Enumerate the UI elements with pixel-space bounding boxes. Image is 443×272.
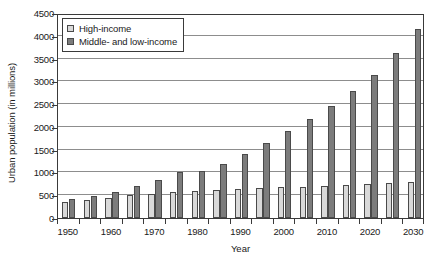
x-axis-tick <box>208 219 209 224</box>
bar-middle-and-low-income <box>112 192 118 218</box>
x-axis-tick <box>316 219 317 224</box>
bar-high-income <box>300 187 306 218</box>
bar-high-income <box>235 189 241 218</box>
x-axis-tick-label: 1990 <box>218 226 264 238</box>
bar-group <box>382 15 404 218</box>
bar-middle-and-low-income <box>328 106 334 218</box>
bar-high-income <box>192 191 198 218</box>
y-axis-tick-label: 1000 <box>16 168 54 178</box>
x-axis-tick-label: 1980 <box>174 226 220 238</box>
bar-middle-and-low-income <box>263 143 269 218</box>
bar-group <box>317 15 339 218</box>
bar-high-income <box>408 182 414 218</box>
x-axis-tick <box>187 219 188 224</box>
legend-item-middle-and-low-income: Middle- and low-income <box>67 35 177 48</box>
urban-population-bar-chart: Urban population (in millions) 450040003… <box>0 0 443 272</box>
x-axis-tick <box>359 219 360 224</box>
bar-middle-and-low-income <box>285 131 291 218</box>
legend-item-high-income: High-income <box>67 22 177 35</box>
bar-high-income <box>84 200 90 218</box>
x-axis-ticks <box>57 219 424 224</box>
x-axis-tick <box>338 219 339 224</box>
legend-label-high-income: High-income <box>79 23 131 34</box>
bar-middle-and-low-income <box>199 171 205 218</box>
bar-middle-and-low-income <box>69 199 75 218</box>
x-axis-tick-labels: 195019601970198019902000201020202030 <box>0 226 443 240</box>
bar-group <box>231 15 253 218</box>
bar-middle-and-low-income <box>371 75 377 218</box>
x-axis-tick <box>251 219 252 224</box>
bar-middle-and-low-income <box>242 154 248 218</box>
y-axis-tick-label: 2500 <box>16 100 54 110</box>
x-axis-tick <box>79 219 80 224</box>
x-axis-tick <box>122 219 123 224</box>
y-axis-tick-label: 500 <box>16 191 54 201</box>
x-axis-tick <box>143 219 144 224</box>
x-axis-tick-label: 2020 <box>347 226 393 238</box>
x-axis-tick <box>423 219 424 224</box>
bar-middle-and-low-income <box>177 172 183 218</box>
x-axis-tick <box>165 219 166 224</box>
x-axis-tick <box>402 219 403 224</box>
legend-swatch-icon-middle-and-low-income <box>67 38 74 45</box>
bar-high-income <box>148 194 154 218</box>
y-axis-tick-label: 2000 <box>16 123 54 133</box>
legend-swatch-icon-high-income <box>67 25 74 32</box>
bar-high-income <box>343 185 349 218</box>
bar-group <box>274 15 296 218</box>
x-axis-tick-label: 1960 <box>88 226 134 238</box>
y-axis-tick-label: 3500 <box>16 55 54 65</box>
x-axis-tick-label: 1970 <box>131 226 177 238</box>
bar-group <box>252 15 274 218</box>
x-axis-tick-label: 2000 <box>261 226 307 238</box>
bar-middle-and-low-income <box>393 53 399 218</box>
y-axis-tick-label: 4500 <box>16 9 54 19</box>
bar-middle-and-low-income <box>307 119 313 218</box>
x-axis-tick-label: 1950 <box>45 226 91 238</box>
bar-group <box>360 15 382 218</box>
bar-high-income <box>278 187 284 218</box>
bar-middle-and-low-income <box>155 180 161 218</box>
bar-middle-and-low-income <box>350 91 356 218</box>
bar-group <box>188 15 210 218</box>
chart-legend: High-income Middle- and low-income <box>62 18 184 52</box>
bar-high-income <box>213 190 219 218</box>
bar-high-income <box>256 188 262 218</box>
bar-high-income <box>127 195 133 218</box>
x-axis-tick <box>273 219 274 224</box>
bar-group <box>209 15 231 218</box>
bar-middle-and-low-income <box>415 29 421 218</box>
x-axis-tick <box>381 219 382 224</box>
bar-high-income <box>105 198 111 219</box>
y-axis-title-label: Urban population (in millions) <box>6 63 17 183</box>
bar-group <box>295 15 317 218</box>
x-axis-tick <box>100 219 101 224</box>
x-axis-title: Year <box>57 243 424 255</box>
bar-middle-and-low-income <box>220 164 226 218</box>
y-axis-tick-label: 0 <box>16 214 54 224</box>
bar-group <box>339 15 361 218</box>
bar-high-income <box>386 183 392 218</box>
y-axis-tick-label: 4000 <box>16 32 54 42</box>
bar-middle-and-low-income <box>91 196 97 218</box>
bar-high-income <box>321 186 327 218</box>
x-axis-tick-label: 2030 <box>390 226 436 238</box>
y-axis-tick-label: 1500 <box>16 146 54 156</box>
bar-high-income <box>364 184 370 218</box>
bar-group <box>403 15 425 218</box>
bar-middle-and-low-income <box>134 186 140 218</box>
x-axis-tick <box>230 219 231 224</box>
legend-label-middle-and-low-income: Middle- and low-income <box>79 36 177 47</box>
x-axis-tick-label: 2010 <box>304 226 350 238</box>
x-axis-tick <box>57 219 58 224</box>
bar-high-income <box>62 202 68 218</box>
y-axis-tick-label: 3000 <box>16 77 54 87</box>
bar-high-income <box>170 192 176 218</box>
x-axis-tick <box>294 219 295 224</box>
